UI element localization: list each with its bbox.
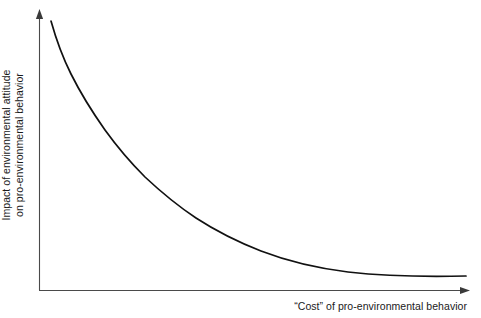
- chart-canvas: [0, 0, 481, 318]
- figure-container: Impact of environmental attitude on pro-…: [0, 0, 481, 318]
- y-axis-label-line-2: on pro-environmental behavior: [13, 69, 26, 220]
- y-axis-label-line-1: Impact of environmental attitude: [0, 69, 13, 220]
- x-axis-arrowhead-icon: [460, 287, 470, 294]
- y-axis-label: Impact of environmental attitude on pro-…: [0, 0, 26, 290]
- impact-vs-cost-curve: [51, 21, 466, 276]
- y-axis-arrowhead-icon: [36, 9, 43, 19]
- x-axis-label: “Cost” of pro-environmental behavior: [0, 300, 467, 313]
- y-axis-label-text: Impact of environmental attitude on pro-…: [0, 69, 25, 220]
